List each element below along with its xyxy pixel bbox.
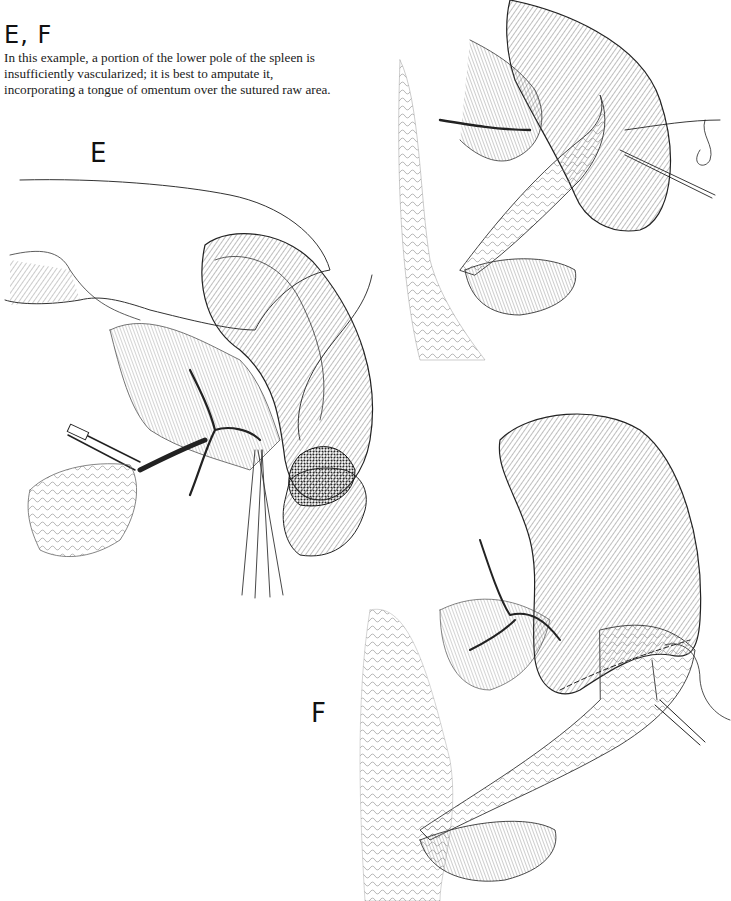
surgical-illustration [0, 0, 731, 901]
panel-label-f: F [311, 700, 326, 726]
panel-f-drawing [360, 414, 730, 901]
panel-top-right-drawing [399, 0, 720, 360]
panel-e-drawing [5, 180, 373, 598]
panel-label-e: E [90, 140, 106, 166]
